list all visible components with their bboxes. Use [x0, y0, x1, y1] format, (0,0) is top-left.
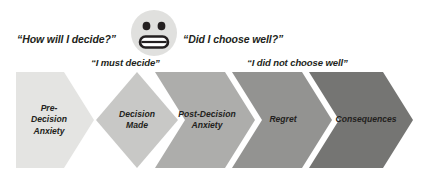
- stage-shape-pre-decision-anxiety: [16, 72, 94, 168]
- grimacing-face-icon: [130, 9, 178, 57]
- process-flow: Pre- Decision Anxiety Decision Made Post…: [0, 72, 424, 168]
- quote-did-i-choose-well: “Did I choose well?”: [183, 33, 283, 45]
- quote-i-did-not-choose-well: “I did not choose well”: [247, 57, 348, 68]
- quote-how-will-i-decide: “How will I decide?”: [17, 33, 116, 45]
- diagram-canvas: “How will I decide?” “I must decide” “Di…: [0, 0, 424, 174]
- quote-i-must-decide: “I must decide”: [91, 57, 160, 68]
- stage-shape-consequences: [309, 72, 413, 168]
